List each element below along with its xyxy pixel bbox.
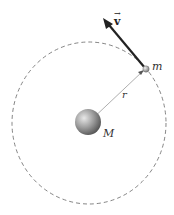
vector-arrow-icon: → <box>114 10 121 18</box>
orbiting-mass-label: m <box>152 61 162 72</box>
velocity-label: → v <box>114 16 120 27</box>
orbit-diagram <box>0 0 174 215</box>
central-mass <box>75 109 101 135</box>
radius-label: r <box>122 90 127 100</box>
velocity-vector <box>109 25 145 68</box>
central-mass-label: M <box>103 128 114 139</box>
orbiting-mass <box>143 66 149 72</box>
